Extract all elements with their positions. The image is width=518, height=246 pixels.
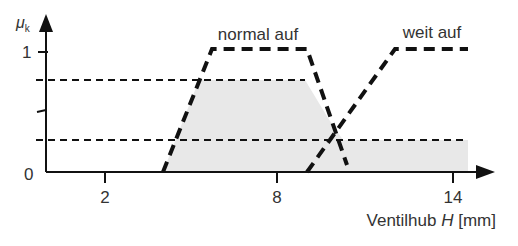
series-label-normal-auf: normal auf [218,25,299,44]
y-axis-label: μk [15,14,31,34]
series-label-weit-auf: weit auf [402,23,462,42]
x-tick-label-14: 14 [444,188,463,207]
membership-function-chart: μk 1 0 2 8 14 Ventilhub H [mm] normal au… [0,0,518,246]
shaded-output-area [163,80,468,172]
x-axis-arrow-icon [476,165,495,179]
y-tick-label-1: 1 [22,43,31,62]
x-axis-label: Ventilhub H [mm] [367,211,496,230]
x-tick-label-8: 8 [272,188,281,207]
y-axis [37,14,53,172]
y-tick-half [37,110,46,112]
y-tick-label-0: 0 [24,165,33,184]
x-tick-label-2: 2 [100,188,109,207]
y-axis-arrow-icon [39,14,53,32]
